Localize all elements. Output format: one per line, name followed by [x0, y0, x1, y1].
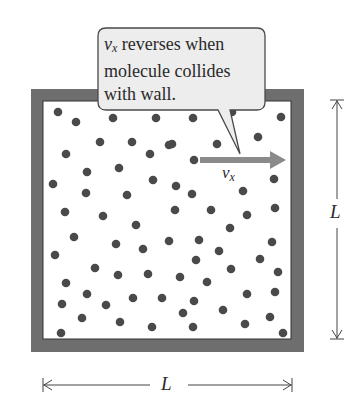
vertical-dimension-label: L [330, 199, 341, 225]
molecule-dot [215, 247, 224, 256]
molecule-dot [49, 180, 58, 189]
molecule-dot [96, 138, 105, 147]
molecule-dot [189, 114, 198, 123]
molecule-dot [192, 256, 201, 265]
molecule-dot [219, 306, 228, 315]
molecule-dot [171, 206, 180, 215]
molecule-dot [61, 208, 70, 217]
molecule-dot [165, 237, 174, 246]
molecule-dot [274, 268, 283, 277]
callout-line-1: vx reverses when [104, 33, 264, 60]
molecule-dot [271, 288, 280, 297]
molecule-dot [102, 301, 111, 310]
molecule-dot [82, 189, 91, 198]
molecule-dot [227, 265, 236, 274]
molecule-dot [58, 300, 67, 309]
molecule-dot [256, 255, 265, 264]
molecule-dot [176, 273, 185, 282]
molecule-dot [195, 236, 204, 245]
molecule-dot [266, 313, 275, 322]
molecule-dot [152, 114, 161, 123]
molecule-dot [51, 251, 60, 260]
molecule-dot [146, 150, 155, 159]
molecule-dot [158, 294, 167, 303]
molecule-dot [54, 108, 63, 117]
molecule-dot [116, 318, 125, 327]
molecule-dot [128, 138, 137, 147]
molecule-dot [189, 323, 198, 332]
molecule-dot [203, 278, 212, 287]
molecule-dot [213, 140, 222, 149]
molecule-dot [254, 133, 263, 142]
molecule-dot [190, 156, 199, 165]
molecule-dot [144, 270, 153, 279]
callout-line-3: with wall. [104, 83, 264, 106]
callout-text: vx reverses when molecule collides with … [104, 33, 264, 106]
molecule-dot [179, 309, 188, 318]
molecule-dot [148, 323, 157, 332]
molecule-dot [72, 118, 81, 127]
molecule-dot [168, 140, 177, 149]
molecule-dot [129, 294, 138, 303]
molecule-dot [62, 150, 71, 159]
molecule-dot [91, 264, 100, 273]
molecule-dot [277, 113, 286, 122]
callout-line-1-text: reverses when [117, 34, 224, 54]
molecule-dot [62, 279, 71, 288]
molecule-dot [243, 290, 252, 299]
molecule-dot [149, 176, 158, 185]
molecule-dot [112, 240, 121, 249]
molecule-dot [109, 114, 118, 123]
molecule-dot [99, 212, 108, 221]
molecule-dot [123, 191, 132, 200]
molecule-dot [271, 204, 280, 213]
molecule-dot [207, 206, 216, 215]
molecule-dot [83, 290, 92, 299]
velocity-symbol: v [104, 34, 112, 54]
molecule-dot [241, 320, 250, 329]
molecule-dot [57, 329, 66, 338]
molecule-dot [78, 314, 87, 323]
arrow-label: vx [222, 163, 235, 185]
arrow-label-symbol: v [222, 163, 230, 182]
arrow-label-subscript: x [230, 170, 235, 184]
molecule-dot [70, 233, 79, 242]
molecule-dot [114, 271, 123, 280]
callout-line-2: molecule collides [104, 60, 264, 83]
molecule-dot [226, 224, 235, 233]
molecule-dot [190, 297, 199, 306]
molecule-dot [268, 238, 277, 247]
horizontal-dimension-label: L [156, 373, 177, 395]
molecule-dot [279, 329, 288, 338]
molecule-dot [83, 168, 92, 177]
molecule-dot [139, 245, 148, 254]
molecule-dot [243, 211, 252, 220]
molecule-dot [115, 164, 124, 173]
molecule-dot [239, 187, 248, 196]
molecule-dot [172, 182, 181, 191]
molecule-dot [132, 221, 141, 230]
molecule-dot [188, 190, 197, 199]
molecule-dot [270, 175, 279, 184]
